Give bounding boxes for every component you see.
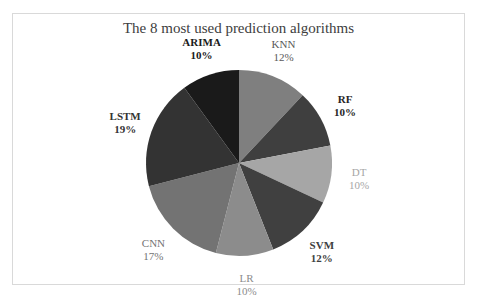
category-label: CNN <box>142 237 165 249</box>
data-label-svm: SVM12% <box>310 239 335 264</box>
data-label-dt: DT10% <box>349 166 369 191</box>
data-label-rf: RF10% <box>334 93 356 118</box>
value-label: 10% <box>191 49 213 61</box>
value-label: 10% <box>237 285 257 297</box>
data-label-cnn: CNN17% <box>142 237 165 262</box>
data-label-lstm: LSTM19% <box>110 110 142 135</box>
category-label: SVM <box>310 239 335 251</box>
data-label-knn: KNN12% <box>272 38 296 63</box>
category-label: RF <box>338 93 353 105</box>
value-label: 10% <box>334 106 356 118</box>
value-label: 17% <box>143 250 163 262</box>
pie-chart: KNN12%RF10%DT10%SVM12%LR10%CNN17%LSTM19%… <box>0 0 477 297</box>
data-label-arima: ARIMA10% <box>182 36 221 61</box>
data-label-lr: LR10% <box>237 272 257 297</box>
value-label: 19% <box>114 123 136 135</box>
category-label: LR <box>240 272 255 284</box>
category-label: KNN <box>272 38 296 50</box>
value-label: 12% <box>273 51 293 63</box>
value-label: 12% <box>311 252 333 264</box>
category-label: DT <box>352 166 367 178</box>
category-label: LSTM <box>110 110 142 122</box>
value-label: 10% <box>349 179 369 191</box>
category-label: ARIMA <box>182 36 221 48</box>
